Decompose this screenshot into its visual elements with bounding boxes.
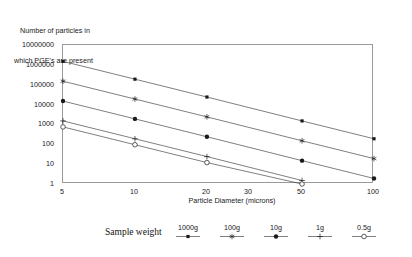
legend: Sample weight 1000g100g10g1g0.5g — [0, 222, 412, 248]
plot-series-svg — [63, 45, 374, 184]
data-point-marker-filled-square-small — [61, 60, 64, 63]
data-point-marker-asterisk — [133, 96, 138, 102]
y-axis-tick-label: 1000 — [38, 119, 54, 128]
y-axis-tick-label: 10 — [46, 159, 54, 168]
legend-item-0.5g[interactable]: 0.5g — [344, 223, 384, 241]
data-point-marker-filled-circle — [274, 234, 278, 238]
legend-item-10g[interactable]: 10g — [256, 223, 296, 241]
legend-item-1000g[interactable]: 1000g — [168, 223, 208, 241]
legend-item-label: 0.5g — [344, 223, 384, 232]
plot-area — [62, 44, 373, 183]
legend-item-swatch — [168, 232, 208, 241]
data-point-marker-plus — [60, 118, 66, 124]
y-axis-tick-label: 100 — [42, 139, 54, 148]
series-line-10g — [63, 101, 374, 178]
x-axis-tick-label: 20 — [202, 187, 210, 196]
legend-title: Sample weight — [105, 227, 162, 237]
data-point-marker-filled-square-small — [186, 235, 189, 238]
series-line-1000g — [63, 61, 374, 138]
legend-item-label: 100g — [212, 223, 252, 232]
y-axis-tick-label: 1000000 — [26, 59, 54, 68]
data-point-marker-filled-circle — [372, 176, 376, 180]
y-axis-tick-label: 100000 — [30, 79, 54, 88]
legend-item-swatch — [344, 232, 384, 241]
data-point-marker-asterisk — [61, 78, 66, 84]
legend-item-100g[interactable]: 100g — [212, 223, 252, 241]
chart-root: Number of particles in which PGE's are p… — [0, 0, 412, 257]
legend-item-label: 1000g — [168, 223, 208, 232]
data-point-marker-filled-square-small — [133, 78, 136, 81]
data-point-marker-asterisk — [372, 156, 377, 162]
legend-marker-filled-square-small — [175, 232, 201, 241]
data-point-marker-open-circle — [61, 125, 66, 130]
legend-item-label: 10g — [256, 223, 296, 232]
legend-item-swatch — [256, 232, 296, 241]
series-line-0.5g — [63, 127, 302, 184]
y-axis-tick-label: 10000 — [34, 99, 54, 108]
y-axis-tick-label: 1 — [50, 179, 54, 188]
legend-marker-open-circle — [351, 232, 377, 241]
legend-item-swatch — [212, 232, 252, 241]
data-point-marker-filled-circle — [205, 135, 209, 139]
x-axis-tick-label: 30 — [244, 187, 252, 196]
legend-marker-plus — [307, 232, 333, 241]
data-point-marker-open-circle — [133, 142, 138, 147]
x-axis-tick-label: 10 — [130, 187, 138, 196]
y-axis-title-line-1: Number of particles in — [20, 26, 93, 36]
data-point-marker-asterisk — [204, 114, 209, 120]
series-line-1g — [63, 121, 302, 181]
x-axis-title: Particle Diameter (microns) — [0, 196, 412, 205]
data-point-marker-filled-square-small — [205, 95, 208, 98]
legend-item-label: 1g — [300, 223, 340, 232]
x-axis-tick-label: 5 — [60, 187, 64, 196]
series-line-100g — [63, 81, 374, 158]
legend-item-swatch — [300, 232, 340, 241]
data-point-marker-plus — [317, 234, 323, 240]
data-point-marker-open-circle — [205, 160, 210, 165]
data-point-marker-filled-circle — [300, 158, 304, 162]
x-axis-title-text: Particle Diameter (microns) — [188, 196, 275, 205]
legend-item-1g[interactable]: 1g — [300, 223, 340, 241]
data-point-marker-filled-square-small — [372, 137, 375, 140]
data-point-marker-plus — [132, 136, 138, 142]
data-point-marker-asterisk — [300, 138, 305, 144]
data-point-marker-filled-circle — [133, 117, 137, 121]
y-axis-tick-labels: 110100100010000100000100000010000000 — [0, 44, 58, 183]
legend-marker-filled-circle — [263, 232, 289, 241]
data-point-marker-plus — [204, 154, 210, 160]
legend-marker-asterisk — [219, 232, 245, 241]
x-axis-tick-label: 50 — [297, 187, 305, 196]
data-point-marker-open-circle — [362, 234, 367, 239]
x-axis-tick-label: 100 — [367, 187, 379, 196]
data-point-marker-filled-square-small — [300, 119, 303, 122]
data-point-marker-filled-circle — [61, 99, 65, 103]
y-axis-tick-label: 10000000 — [22, 40, 54, 49]
